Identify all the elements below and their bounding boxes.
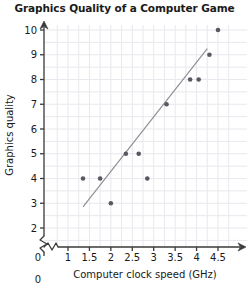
data-point	[98, 176, 103, 181]
data-point	[109, 201, 114, 206]
data-point	[136, 151, 141, 156]
axis-ticks	[40, 30, 218, 251]
x-tick-label: 1.5	[81, 252, 97, 263]
trend-line-segment	[83, 49, 207, 207]
x-tick-label: 2	[108, 252, 114, 263]
data-point	[124, 151, 129, 156]
data-point	[164, 102, 169, 107]
x-tick-label: 1	[65, 252, 71, 263]
y-tick-label: 8	[31, 74, 37, 85]
data-point	[196, 77, 201, 82]
x-tick-label: 4	[193, 252, 199, 263]
data-point	[207, 52, 212, 57]
y-tick-label: 7	[31, 99, 37, 110]
data-point	[81, 176, 86, 181]
x-axis-title: Computer clock speed (GHz)	[73, 269, 217, 280]
y-tick-label: 9	[31, 49, 37, 60]
data-point	[216, 28, 221, 33]
trend-line	[83, 49, 207, 207]
x-tick-label: 3	[151, 252, 157, 263]
gridlines	[44, 25, 247, 247]
x-origin-label: 0	[35, 252, 41, 263]
y-origin-label: 0	[35, 274, 41, 285]
data-point	[145, 176, 150, 181]
plot-area: 234567891011.522.533.544.500 Computer cl…	[0, 0, 249, 286]
y-tick-label: 2	[31, 223, 37, 234]
y-tick-label: 5	[31, 148, 37, 159]
x-tick-label: 3.5	[167, 252, 183, 263]
y-axis-title: Graphics quality	[4, 94, 15, 176]
y-tick-label: 6	[31, 124, 37, 135]
data-point	[188, 77, 193, 82]
x-tick-label: 4.5	[210, 252, 226, 263]
y-tick-label: 10	[24, 25, 37, 36]
x-tick-label: 2.5	[124, 252, 140, 263]
scatter-chart: Graphics Quality of a Computer Game 2345…	[0, 0, 249, 286]
y-tick-label: 3	[31, 198, 37, 209]
y-tick-label: 4	[31, 173, 37, 184]
